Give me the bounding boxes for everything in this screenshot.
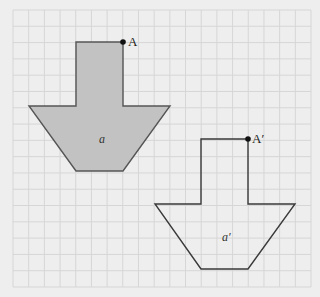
point-a <box>120 39 126 45</box>
shape-a-label: a <box>99 132 105 146</box>
shape-a-prime-label: a′ <box>222 230 231 244</box>
point-a-prime-label: A′ <box>252 131 264 146</box>
background <box>0 0 320 297</box>
point-a-prime <box>245 136 251 142</box>
translation-diagram: a a′ A A′ <box>0 0 320 297</box>
point-a-label: A <box>128 34 138 49</box>
